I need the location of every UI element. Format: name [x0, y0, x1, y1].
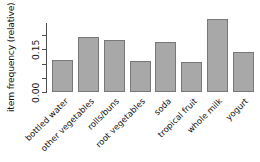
y-axis-tick: [42, 92, 46, 93]
y-axis-line: [46, 23, 47, 93]
y-axis-tick-label: 0.00: [30, 83, 41, 103]
y-axis-tick: [42, 64, 46, 65]
bars-container: [50, 18, 256, 92]
bar: [181, 62, 202, 92]
item-frequency-bar-chart: item frequency (relative) 0.000.15 bottl…: [0, 0, 260, 162]
y-axis-title: item frequency (relative): [2, 4, 20, 112]
y-axis-tick: [42, 49, 46, 50]
y-axis-tick: [42, 35, 46, 36]
bar: [233, 52, 254, 92]
y-axis-tick: [42, 78, 46, 79]
y-axis-tick-label: 0.15: [30, 40, 41, 60]
bar: [155, 42, 176, 92]
bar: [78, 37, 99, 92]
bar: [207, 19, 228, 92]
bar: [104, 40, 125, 92]
bar: [52, 60, 73, 92]
bar: [130, 61, 151, 92]
